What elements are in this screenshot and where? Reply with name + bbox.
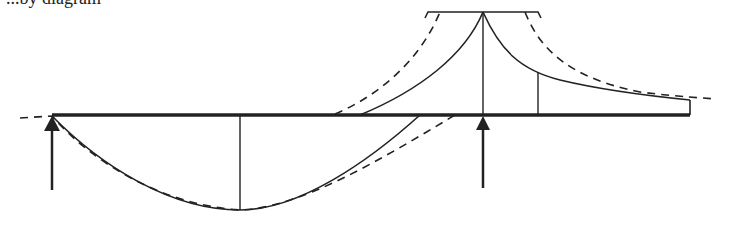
dashed-envelope-hog-left xyxy=(335,12,440,114)
left-support-arrowhead-icon xyxy=(44,116,60,131)
dashed-envelope-hog-right xyxy=(525,12,716,99)
moment-curve-sag xyxy=(52,115,420,210)
dashed-envelope-left xyxy=(20,115,455,210)
moment-curve-hog-right xyxy=(483,12,690,100)
dashed-envelope-left-tail xyxy=(20,116,200,170)
beam-moment-diagram xyxy=(0,0,732,231)
right-support-arrowhead-icon xyxy=(476,116,490,130)
moment-curve-hog-left xyxy=(360,12,483,115)
